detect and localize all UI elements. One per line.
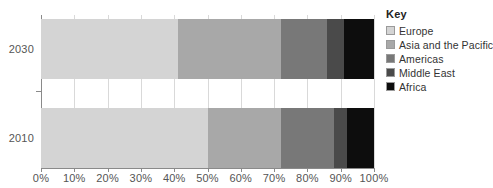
legend-item-label: Asia and the Pacific xyxy=(399,39,493,51)
plot-area xyxy=(41,15,374,168)
segment-2010-africa xyxy=(347,108,374,168)
legend: Key EuropeAsia and the PacificAmericasMi… xyxy=(386,8,486,94)
bar-2010 xyxy=(41,108,374,168)
legend-swatch-icon xyxy=(386,40,395,49)
segment-2030-africa xyxy=(344,19,374,79)
legend-items: EuropeAsia and the PacificAmericasMiddle… xyxy=(386,24,486,93)
legend-title: Key xyxy=(386,8,486,20)
legend-item-asia-and-the-pacific: Asia and the Pacific xyxy=(386,38,486,51)
segment-2010-americas xyxy=(281,108,334,168)
segment-2010-middle-east xyxy=(334,108,347,168)
legend-swatch-icon xyxy=(386,82,395,91)
segment-2030-asia-and-the-pacific xyxy=(178,19,281,79)
legend-item-middle-east: Middle East xyxy=(386,66,486,79)
segment-2030-europe xyxy=(41,19,178,79)
segment-2010-europe xyxy=(41,108,208,168)
tick-label-100%: 100% xyxy=(354,172,394,184)
legend-item-americas: Americas xyxy=(386,52,486,65)
legend-swatch-icon xyxy=(386,54,395,63)
legend-item-africa: Africa xyxy=(386,80,486,93)
segment-2010-asia-and-the-pacific xyxy=(208,108,281,168)
legend-item-europe: Europe xyxy=(386,24,486,37)
category-label-2010: 2010 xyxy=(0,132,34,144)
legend-item-label: Europe xyxy=(399,25,433,37)
bar-2030 xyxy=(41,19,374,79)
gridline-100% xyxy=(374,15,375,168)
legend-swatch-icon xyxy=(386,68,395,77)
legend-item-label: Americas xyxy=(399,53,444,65)
legend-item-label: Africa xyxy=(399,81,426,93)
legend-swatch-icon xyxy=(386,26,395,35)
segment-2030-americas xyxy=(281,19,328,79)
category-label-2030: 2030 xyxy=(0,43,34,55)
legend-item-label: Middle East xyxy=(399,67,455,79)
segment-2030-middle-east xyxy=(327,19,344,79)
